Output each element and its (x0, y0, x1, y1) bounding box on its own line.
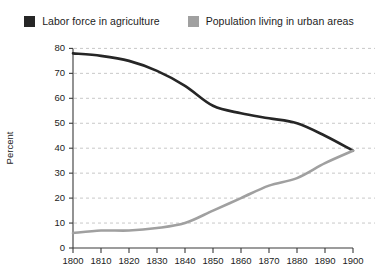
chart-container: Labor force in agriculture Population li… (0, 0, 378, 274)
x-axis-tick-label: 1900 (342, 255, 363, 266)
y-axis-tick-label: 60 (54, 92, 65, 103)
y-axis-tick-label: 80 (54, 42, 65, 53)
x-axis-tick-label: 1800 (62, 255, 83, 266)
x-axis-tick-label: 1880 (286, 255, 307, 266)
y-axis-tick-label: 70 (54, 67, 65, 78)
y-axis-tick-label: 40 (54, 142, 65, 153)
y-axis-tick-label: 30 (54, 167, 65, 178)
x-axis-tick-label: 1860 (230, 255, 251, 266)
chart-plot-area: 01020304050607080 1800181018201830184018… (0, 0, 378, 274)
y-axis-ticks (69, 48, 73, 248)
x-axis-tick-label: 1840 (174, 255, 195, 266)
x-axis-tick-label: 1830 (146, 255, 167, 266)
x-axis-tick-labels: 1800181018201830184018501860187018801890… (62, 255, 363, 266)
x-axis-tick-label: 1820 (118, 255, 139, 266)
y-axis-tick-label: 20 (54, 192, 65, 203)
y-axis-title: Percent (4, 131, 15, 164)
y-axis-tick-label: 0 (60, 242, 65, 253)
y-axis-tick-labels: 01020304050607080 (54, 42, 65, 253)
series-line-urban (73, 151, 353, 233)
x-axis-tick-label: 1810 (90, 255, 111, 266)
series-line-agriculture (73, 53, 353, 150)
x-axis-tick-label: 1850 (202, 255, 223, 266)
x-axis-tick-label: 1890 (314, 255, 335, 266)
gridlines (74, 48, 375, 223)
y-axis-tick-label: 10 (54, 217, 65, 228)
y-axis-tick-label: 50 (54, 117, 65, 128)
x-axis-tick-label: 1870 (258, 255, 279, 266)
x-axis-ticks (73, 248, 353, 253)
